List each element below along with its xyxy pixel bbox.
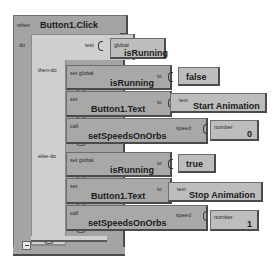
value-socket — [168, 72, 173, 82]
text-type-label: text — [179, 97, 188, 103]
value-socket — [203, 211, 208, 221]
collapse-button[interactable] — [22, 241, 31, 250]
number-value: 1 — [247, 219, 252, 229]
to-label: to — [157, 160, 162, 166]
text-value: Start Animation — [193, 101, 260, 111]
then-text-start-animation[interactable]: text Start Animation — [170, 93, 267, 113]
event-name: Button1.Click — [40, 20, 98, 30]
speed-label: speed — [176, 212, 191, 218]
test-socket — [98, 41, 103, 51]
else-call-setspeedsonorbs[interactable]: call setSpeedsOnOrbs speed — [66, 205, 208, 231]
value-socket — [203, 124, 208, 134]
test-value-get-global[interactable]: global isRunning — [110, 38, 166, 59]
set-target: Button1.Text — [91, 104, 145, 114]
number-type-label: number — [214, 214, 233, 220]
else-set-button1-text[interactable]: set Button1.Text to — [66, 178, 172, 204]
set-target: Button1.Text — [91, 191, 145, 201]
text-type-label: text — [177, 186, 186, 192]
else-value-true[interactable]: true — [178, 154, 216, 173]
event-header-extension — [120, 15, 128, 35]
when-label: when — [17, 22, 30, 28]
text-value: Stop Animation — [189, 190, 255, 200]
call-label: call — [70, 210, 78, 216]
boolean-value: true — [186, 159, 203, 169]
do-label: do — [19, 42, 25, 48]
then-do-label: then-do — [38, 67, 57, 73]
set-target: isRunning — [110, 78, 154, 88]
else-do-label: else-do — [38, 153, 56, 159]
number-value: 0 — [247, 129, 252, 139]
speed-label: speed — [176, 125, 191, 131]
to-label: to — [157, 73, 162, 79]
ifelse-bottom — [31, 236, 107, 242]
then-set-button1-text[interactable]: set Button1.Text to — [66, 91, 172, 117]
procedure-name: setSpeedsOnOrbs — [88, 131, 167, 141]
set-global-label: set global — [70, 157, 94, 163]
to-label: to — [157, 186, 162, 192]
set-label: set — [70, 96, 77, 102]
else-number-1[interactable]: number 1 — [210, 210, 259, 231]
number-type-label: number — [214, 124, 233, 130]
set-target: isRunning — [110, 165, 154, 175]
test-label: test — [85, 42, 94, 48]
then-number-0[interactable]: number 0 — [210, 120, 259, 141]
ifelse-block[interactable]: ifelse then-do else-do — [31, 34, 66, 246]
then-value-false[interactable]: false — [178, 67, 220, 86]
call-label: call — [70, 123, 78, 129]
boolean-value: false — [186, 72, 207, 82]
set-global-label: set global — [70, 70, 94, 76]
then-set-global-isrunning[interactable]: set global isRunning to — [66, 65, 172, 90]
to-label: to — [157, 99, 162, 105]
then-call-setspeedsonorbs[interactable]: call setSpeedsOnOrbs speed — [66, 118, 208, 144]
global-variable-name: isRunning — [124, 48, 168, 58]
value-socket — [168, 159, 173, 169]
procedure-name: setSpeedsOnOrbs — [88, 218, 167, 228]
else-set-global-isrunning[interactable]: set global isRunning to — [66, 152, 172, 177]
set-label: set — [70, 183, 77, 189]
else-text-stop-animation[interactable]: text Stop Animation — [168, 182, 263, 202]
